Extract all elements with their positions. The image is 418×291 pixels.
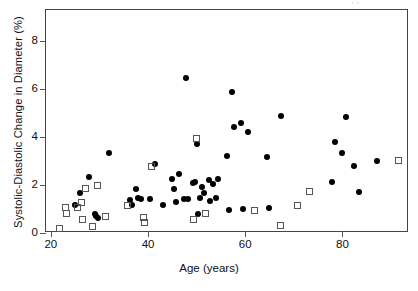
y-tick-8 — [40, 41, 46, 42]
data-point-filled-circles — [169, 176, 175, 182]
data-point-open-squares — [63, 210, 70, 217]
data-point-open-squares — [193, 135, 200, 142]
data-point-open-squares — [277, 222, 284, 229]
x-tick-60 — [245, 231, 246, 237]
x-tick-40 — [148, 231, 149, 237]
data-point-filled-circles — [185, 196, 191, 202]
data-point-filled-circles — [213, 195, 219, 201]
x-tick-label-40: 40 — [142, 239, 155, 251]
data-point-filled-circles — [106, 150, 112, 156]
x-tick-label-20: 20 — [44, 239, 57, 251]
y-axis-label: Systolic-Diastolic Change in Diameter (%… — [12, 8, 24, 236]
x-tick-label-60: 60 — [239, 239, 252, 251]
data-point-open-squares — [79, 216, 86, 223]
data-point-open-squares — [124, 202, 131, 209]
data-point-filled-circles — [266, 205, 272, 211]
data-point-open-squares — [294, 202, 301, 209]
data-point-filled-circles — [339, 150, 345, 156]
data-point-open-squares — [395, 157, 402, 164]
y-tick-0 — [40, 233, 46, 234]
stray-artifact-mark: ' ' — [352, 1, 360, 8]
data-point-filled-circles — [332, 139, 338, 145]
data-point-filled-circles — [264, 154, 270, 160]
x-tick-label-80: 80 — [336, 239, 349, 251]
data-point-filled-circles — [240, 206, 246, 212]
data-point-filled-circles — [176, 171, 182, 177]
data-point-open-squares — [94, 182, 101, 189]
data-point-filled-circles — [278, 113, 284, 119]
y-tick-label-0: 0 — [32, 227, 38, 239]
x-axis-label: Age (years) — [0, 262, 418, 274]
data-point-open-squares — [82, 185, 89, 192]
data-point-open-squares — [251, 207, 258, 214]
y-tick-label-8: 8 — [32, 35, 38, 47]
data-point-filled-circles — [133, 186, 139, 192]
data-point-filled-circles — [229, 89, 235, 95]
data-point-filled-circles — [374, 158, 380, 164]
data-point-filled-circles — [201, 190, 207, 196]
data-point-filled-circles — [231, 124, 237, 130]
data-point-open-squares — [148, 163, 155, 170]
data-point-open-squares — [306, 188, 313, 195]
y-tick-label-4: 4 — [32, 131, 38, 143]
data-point-filled-circles — [226, 207, 232, 213]
data-point-filled-circles — [356, 189, 362, 195]
y-tick-label-2: 2 — [32, 179, 38, 191]
data-point-open-squares — [56, 225, 63, 232]
data-point-filled-circles — [351, 163, 357, 169]
data-point-filled-circles — [147, 196, 153, 202]
data-point-filled-circles — [224, 153, 230, 159]
data-point-filled-circles — [95, 215, 101, 221]
data-point-filled-circles — [173, 199, 179, 205]
data-point-filled-circles — [329, 179, 335, 185]
data-point-filled-circles — [245, 129, 251, 135]
data-point-filled-circles — [171, 186, 177, 192]
data-point-open-squares — [78, 199, 85, 206]
data-point-open-squares — [89, 223, 96, 230]
data-point-filled-circles — [238, 120, 244, 126]
data-point-open-squares — [190, 216, 197, 223]
scatter-plot-figure: ' ' Systolic-Diastolic Change in Diamete… — [0, 0, 418, 291]
data-point-filled-circles — [160, 202, 166, 208]
y-tick-label-6: 6 — [32, 83, 38, 95]
y-tick-4 — [40, 137, 46, 138]
data-point-open-squares — [141, 219, 148, 226]
data-point-filled-circles — [183, 75, 189, 81]
y-tick-6 — [40, 89, 46, 90]
data-point-filled-circles — [343, 114, 349, 120]
data-point-filled-circles — [210, 181, 216, 187]
data-point-open-squares — [202, 210, 209, 217]
data-point-filled-circles — [199, 184, 205, 190]
data-point-filled-circles — [192, 179, 198, 185]
data-point-filled-circles — [215, 176, 221, 182]
plot-area: 02468 20406080 — [45, 9, 408, 232]
x-tick-80 — [342, 231, 343, 237]
data-point-filled-circles — [138, 196, 144, 202]
data-point-filled-circles — [86, 174, 92, 180]
y-tick-2 — [40, 185, 46, 186]
x-tick-20 — [51, 231, 52, 237]
data-point-open-squares — [102, 213, 109, 220]
